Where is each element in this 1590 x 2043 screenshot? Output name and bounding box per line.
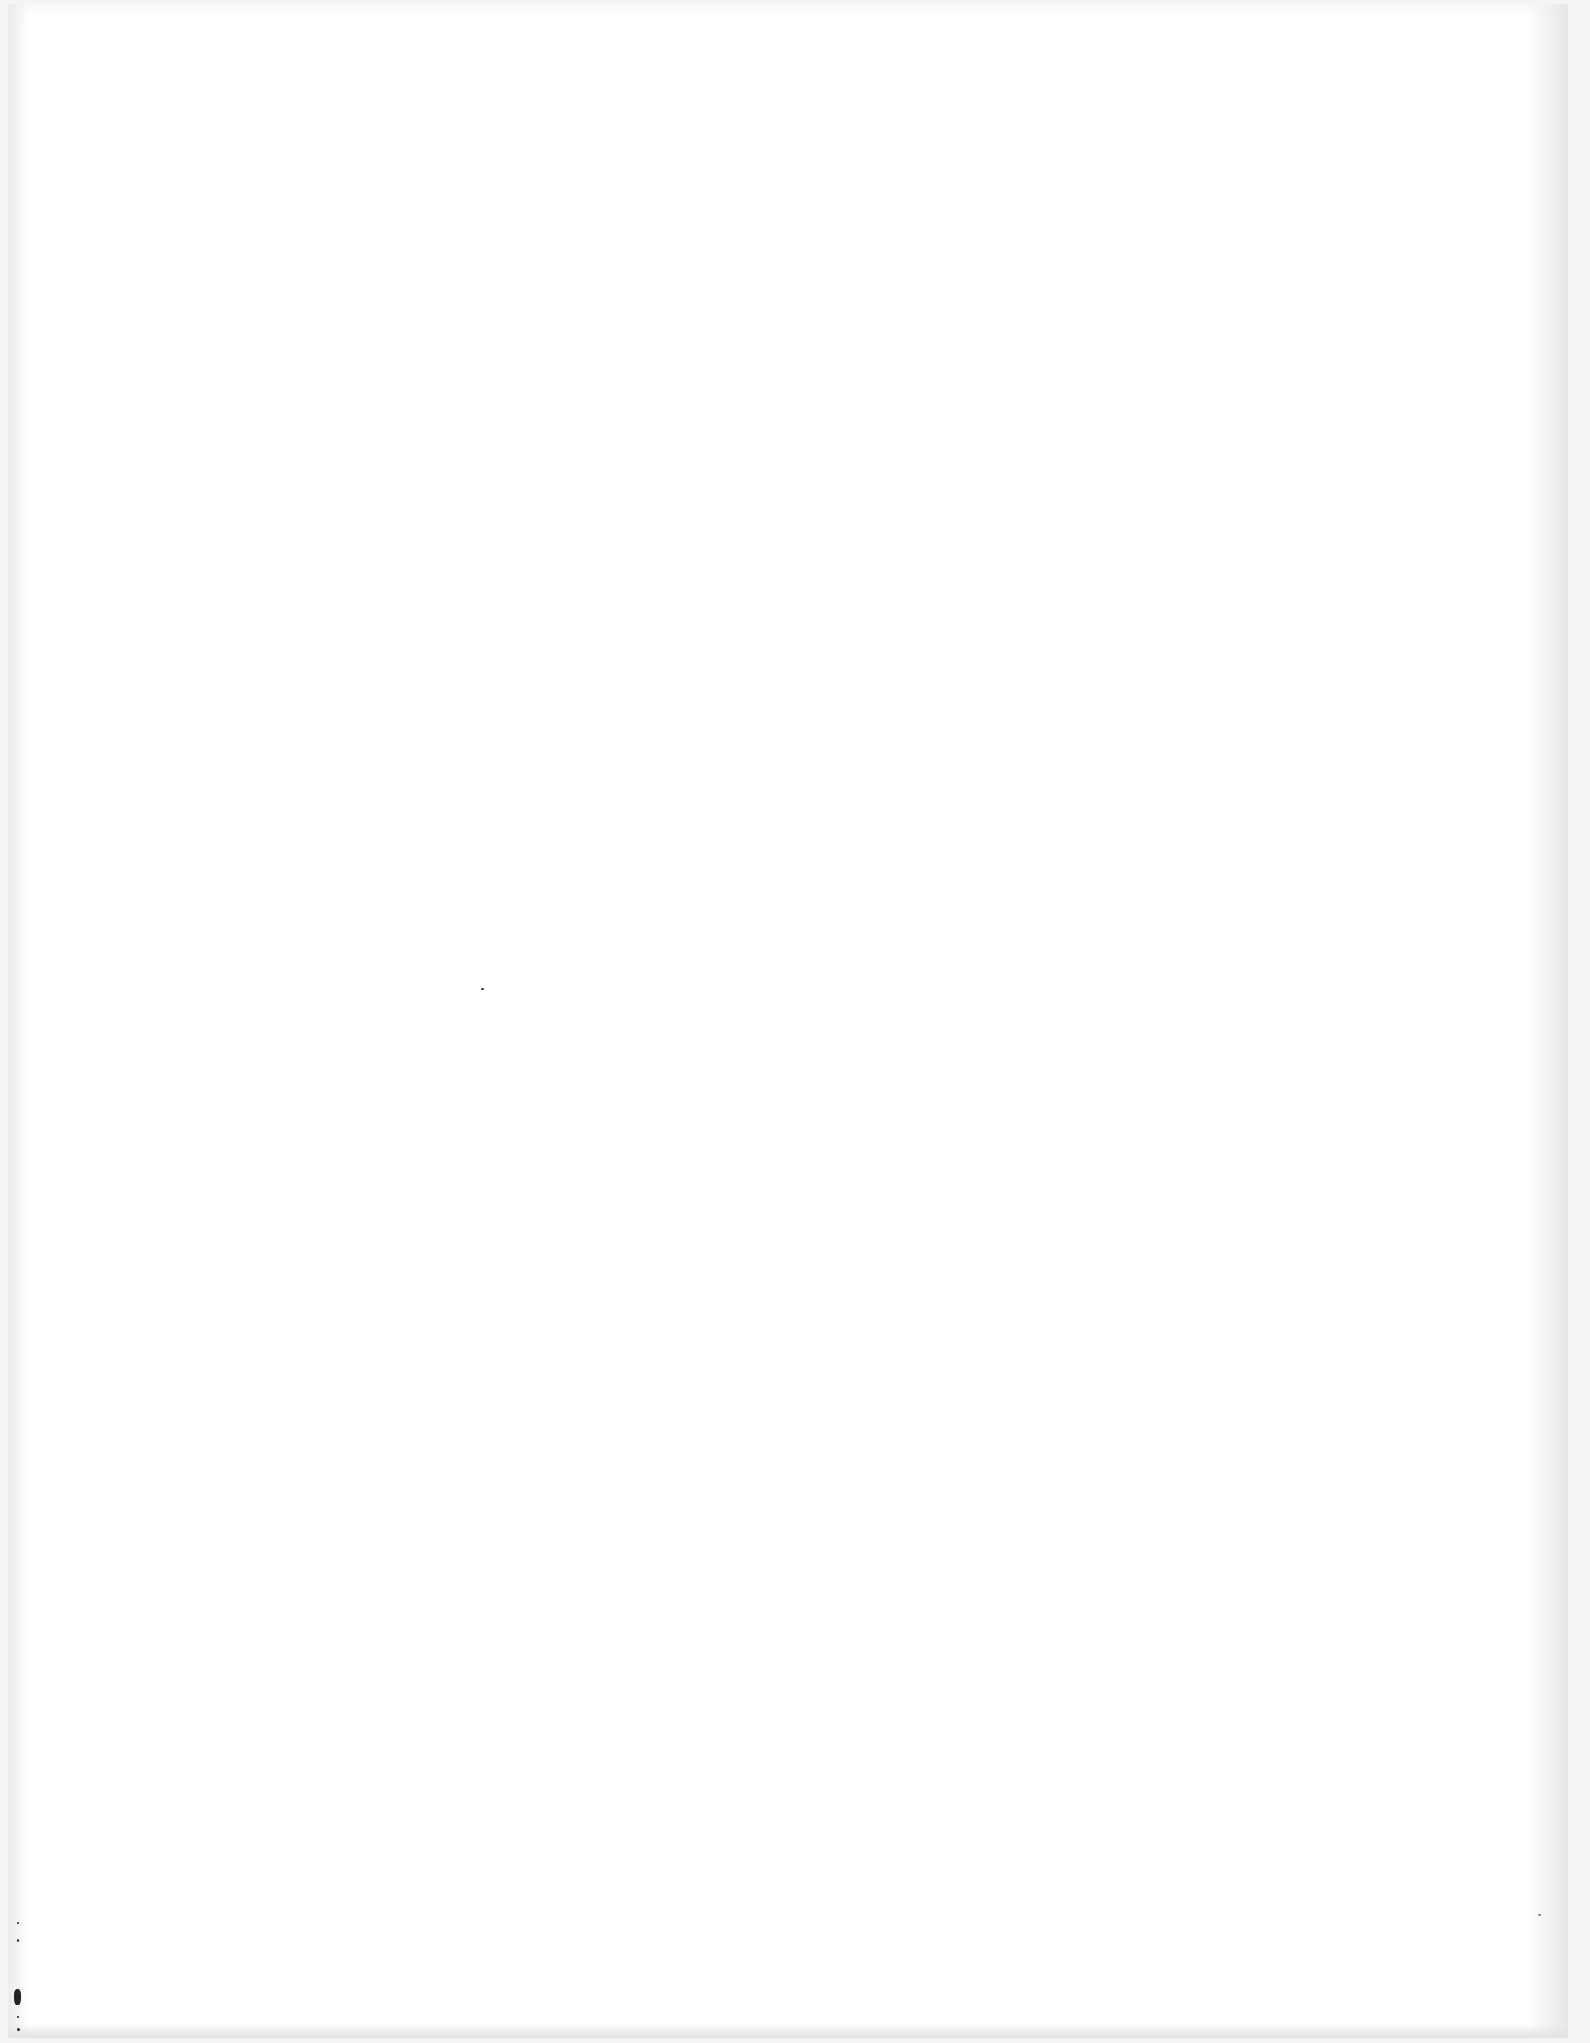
scan-speck (17, 1939, 19, 1942)
scan-shadow-right (1528, 4, 1568, 2038)
scan-speck (17, 1922, 19, 1924)
scan-shadow-left (8, 4, 30, 2038)
scan-speck (1538, 1914, 1541, 1916)
blank-scanned-page (8, 4, 1568, 2038)
scan-speck (17, 2016, 19, 2018)
scan-speck (481, 988, 484, 990)
scan-shadow-bottom (8, 2024, 1568, 2038)
scan-speck (14, 1989, 21, 2005)
scan-speck (17, 2028, 20, 2031)
